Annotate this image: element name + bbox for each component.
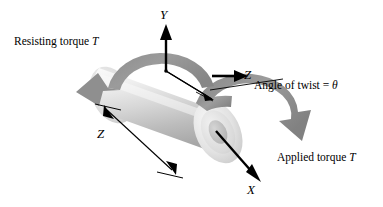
label-z-axis: Z <box>244 68 251 81</box>
applied-torque-symbol: T <box>349 151 355 163</box>
y-axis-arrow <box>160 24 172 73</box>
applied-torque-text: Applied torque <box>277 151 349 163</box>
angle-of-twist-text: Angle of twist = <box>254 79 332 91</box>
label-angle-of-twist: Angle of twist = θ <box>254 80 338 92</box>
torsion-diagram-svg <box>0 0 383 207</box>
label-resisting-torque: Resisting torque T <box>14 36 98 48</box>
resisting-torque-symbol: T <box>92 35 98 47</box>
label-x-axis: X <box>247 183 255 196</box>
theta-symbol: θ <box>332 79 338 91</box>
resisting-torque-text: Resisting torque <box>14 35 92 47</box>
figure-root: Resisting torque T Y Z Angle of twist = … <box>0 0 383 207</box>
label-y-axis: Y <box>160 8 167 21</box>
label-length-z: Z <box>97 127 104 140</box>
label-applied-torque: Applied torque T <box>277 152 356 164</box>
